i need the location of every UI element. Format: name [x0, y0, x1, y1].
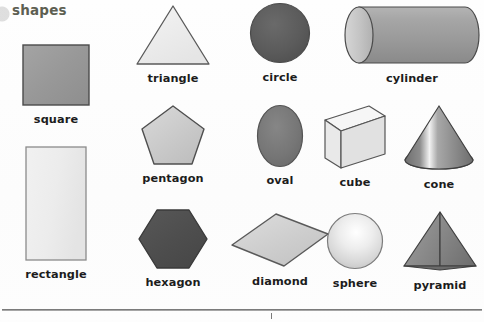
shape-cell-oval[interactable]: oval	[238, 104, 322, 187]
shape-label: rectangle	[8, 268, 104, 281]
shape-label: sphere	[316, 277, 394, 290]
pyramid-icon	[398, 210, 482, 272]
square-icon	[8, 44, 104, 106]
cube-icon	[318, 104, 392, 170]
shape-label: square	[8, 113, 104, 126]
shape-label: pentagon	[118, 172, 228, 185]
shape-cell-cube[interactable]: cube	[318, 104, 392, 189]
triangle-icon	[118, 4, 228, 66]
shape-label: hexagon	[118, 276, 228, 289]
rectangle-icon	[8, 146, 104, 261]
shape-label: circle	[238, 71, 322, 84]
shapes-illustration-page: shapes square	[0, 0, 484, 322]
sphere-icon	[316, 212, 394, 270]
shape-label: triangle	[118, 72, 228, 85]
shape-label: cone	[398, 178, 480, 191]
shape-cell-rectangle[interactable]: rectangle	[8, 146, 104, 281]
oval-icon	[238, 104, 322, 168]
footer-rule	[2, 309, 482, 311]
shape-label: cylinder	[340, 72, 484, 85]
shape-cell-circle[interactable]: circle	[238, 2, 322, 84]
shape-label: cube	[318, 176, 392, 189]
page-title: shapes	[12, 2, 67, 18]
shape-cell-hexagon[interactable]: hexagon	[118, 208, 228, 289]
shape-cell-pentagon[interactable]: pentagon	[118, 104, 228, 185]
hexagon-icon	[118, 208, 228, 270]
shape-cell-sphere[interactable]: sphere	[316, 212, 394, 290]
cone-icon	[398, 104, 480, 172]
cylinder-icon	[340, 4, 484, 66]
shape-label: oval	[238, 174, 322, 187]
shape-cell-triangle[interactable]: triangle	[118, 4, 228, 85]
shape-cell-pyramid[interactable]: pyramid	[398, 210, 482, 292]
shape-cell-square[interactable]: square	[8, 44, 104, 126]
pentagon-icon	[118, 104, 228, 166]
footer-tick-mark	[271, 313, 272, 319]
shape-label: pyramid	[398, 279, 482, 292]
shape-cell-cylinder[interactable]: cylinder	[340, 4, 484, 85]
circle-icon	[238, 2, 322, 64]
shape-cell-cone[interactable]: cone	[398, 104, 480, 191]
